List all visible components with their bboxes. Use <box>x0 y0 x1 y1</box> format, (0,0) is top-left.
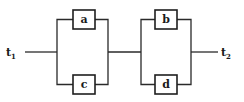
component-a: a <box>73 10 95 29</box>
component-b: b <box>155 10 177 29</box>
component-c: c <box>73 75 95 94</box>
block2-right-rail <box>177 20 191 85</box>
component-b-label: b <box>162 13 170 26</box>
component-c-label: c <box>81 78 88 91</box>
parallel-block-1: a c <box>57 10 108 94</box>
block2-left-rail <box>141 20 155 85</box>
block1-right-rail <box>95 20 108 85</box>
parallel-block-2: b d <box>141 10 191 94</box>
component-a-label: a <box>80 13 87 26</box>
component-d: d <box>155 75 177 94</box>
terminal-t2: t2 <box>221 46 231 61</box>
series-parallel-diagram: t1 a c b d t2 <box>0 0 244 102</box>
terminal-t1: t1 <box>6 46 16 61</box>
block1-left-rail <box>57 20 73 85</box>
component-d-label: d <box>162 78 170 91</box>
